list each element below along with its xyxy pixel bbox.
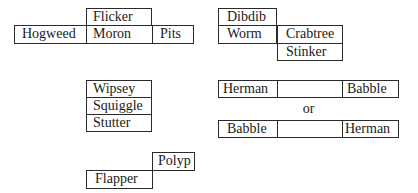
cell-stinker: Stinker xyxy=(277,43,343,61)
cell-herman-right: Herman xyxy=(342,120,399,138)
cell-empty-middle-1 xyxy=(277,80,343,98)
cell-polyp: Polyp xyxy=(152,152,195,171)
cell-babble-left: Babble xyxy=(218,120,278,138)
cell-crabtree: Crabtree xyxy=(277,25,343,44)
cell-flicker: Flicker xyxy=(86,8,152,26)
cell-moron: Moron xyxy=(86,25,153,44)
cell-squiggle: Squiggle xyxy=(86,97,152,115)
cell-worm: Worm xyxy=(218,25,277,44)
cell-empty-middle-2 xyxy=(277,120,343,138)
cell-herman-left: Herman xyxy=(218,80,278,98)
cell-pits: Pits xyxy=(152,25,194,44)
cell-stutter: Stutter xyxy=(86,114,152,132)
cell-dibdib: Dibdib xyxy=(218,8,277,26)
separator-or: or xyxy=(218,101,399,117)
cell-wipsey: Wipsey xyxy=(86,80,152,98)
cell-flapper: Flapper xyxy=(86,170,153,189)
cell-babble-right: Babble xyxy=(342,80,399,98)
cell-hogweed: Hogweed xyxy=(14,25,87,44)
